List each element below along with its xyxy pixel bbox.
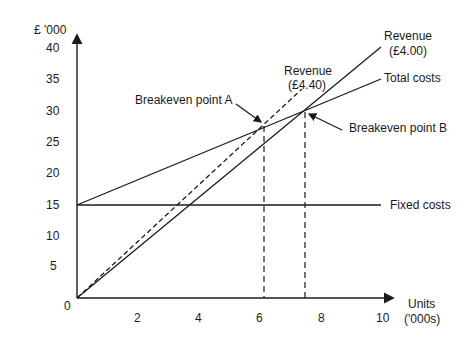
breakeven-b-label: Breakeven point B xyxy=(349,121,447,135)
y-tick-30: 30 xyxy=(46,104,60,118)
y-tick-20: 20 xyxy=(46,166,60,180)
revenue-400-line xyxy=(77,47,381,298)
x-tick-10: 10 xyxy=(376,311,390,325)
x-tick-4: 4 xyxy=(195,311,202,325)
revenue-400-label-1: Revenue xyxy=(384,29,432,43)
x-unit-label-2: ('000s) xyxy=(404,312,440,326)
y-tick-5: 5 xyxy=(50,259,57,273)
origin-label: 0 xyxy=(64,299,71,313)
breakeven-a-pointer xyxy=(236,104,261,122)
x-unit-label-1: Units xyxy=(408,297,435,311)
y-tick-15: 15 xyxy=(46,198,60,212)
x-tick-2: 2 xyxy=(134,311,141,325)
y-tick-35: 35 xyxy=(46,72,60,86)
breakeven-chart: £ '000 40 35 30 25 20 15 10 5 0 2 4 6 8 … xyxy=(0,0,469,344)
y-tick-25: 25 xyxy=(46,135,60,149)
y-unit-label: £ '000 xyxy=(34,23,67,37)
breakeven-b-pointer xyxy=(309,114,342,130)
y-tick-10: 10 xyxy=(46,229,60,243)
revenue-440-label-1: Revenue xyxy=(284,64,332,78)
total-costs-label: Total costs xyxy=(384,71,441,85)
x-tick-6: 6 xyxy=(256,311,263,325)
x-tick-8: 8 xyxy=(318,311,325,325)
revenue-440-label-2: (£4.40) xyxy=(288,78,326,92)
revenue-440-line xyxy=(77,89,302,298)
breakeven-a-label: Breakeven point A xyxy=(135,93,232,107)
fixed-costs-label: Fixed costs xyxy=(390,198,451,212)
revenue-400-label-2: (£4.00) xyxy=(389,44,427,58)
y-tick-40: 40 xyxy=(46,41,60,55)
